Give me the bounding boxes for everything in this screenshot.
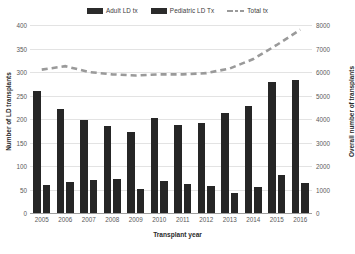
dashed-line-icon [227,8,244,14]
bar-swatch-icon [87,8,103,14]
total-tx-line [30,25,312,213]
legend-label: Total tx [247,7,268,14]
x-axis-tick: 2016 [285,216,315,223]
x-axis-title: Transplant year [0,231,355,238]
y-axis-right-tick: 7000 [316,45,330,52]
legend-label: Adult LD tx [106,7,138,14]
y-axis-left-tick: 100 [16,163,27,170]
legend-item-adult-ld-tx: Adult LD tx [87,7,138,14]
chart-legend: Adult LD tx Pediatric LD Tx Total tx [0,4,355,17]
x-axis-line [30,213,312,214]
y-axis-left-tick: 350 [16,45,27,52]
y-axis-right-tick: 0 [316,210,320,217]
y-axis-right-tick: 1000 [316,186,330,193]
y-axis-left-tick: 250 [16,92,27,99]
y-axis-left-tick: 400 [16,22,27,29]
bar-swatch-icon [151,8,167,14]
y-axis-left-tick: 300 [16,69,27,76]
y-axis-right-tick: 8000 [316,22,330,29]
y-axis-right-tick: 3000 [316,139,330,146]
legend-item-pediatric-ld-tx: Pediatric LD Tx [151,7,214,14]
y-axis-right-tick: 5000 [316,92,330,99]
y-axis-right-title: Overall number of transplants [348,52,355,172]
legend-item-total-tx: Total tx [227,7,268,14]
chart-container: Adult LD tx Pediatric LD Tx Total tx 050… [0,0,355,254]
y-axis-left-tick: 150 [16,139,27,146]
legend-label: Pediatric LD Tx [170,7,214,14]
y-axis-right-tick: 4000 [316,116,330,123]
y-axis-right-tick: 2000 [316,163,330,170]
y-axis-left-title: Number of LD transplants [5,57,12,167]
y-axis-right-tick: 6000 [316,69,330,76]
y-axis-left-tick: 50 [20,186,27,193]
y-axis-left-tick: 200 [16,116,27,123]
